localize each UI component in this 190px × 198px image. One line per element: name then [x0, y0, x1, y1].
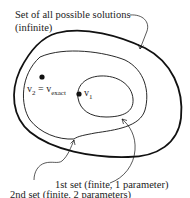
label-second-set: 2nd set (finite, 2 parameters) — [10, 189, 131, 198]
point-v1 — [76, 91, 81, 96]
label-all-solutions: Set of all possible solutions — [15, 9, 131, 20]
label-v2-equals-vexact: v2 = vexact — [27, 83, 66, 97]
v1-subscript: 1 — [89, 93, 93, 101]
leader-all-set — [130, 15, 148, 49]
solution-sets-diagram: Set of all possible solutions (infinite)… — [0, 0, 190, 198]
leader-first-set — [110, 119, 135, 183]
label-v1: v1 — [84, 87, 93, 101]
label-all-solutions-note: (infinite) — [15, 22, 53, 34]
point-v2 — [39, 74, 44, 79]
v2-equals: = — [36, 83, 47, 94]
vexact-subscript: exact — [51, 89, 66, 97]
